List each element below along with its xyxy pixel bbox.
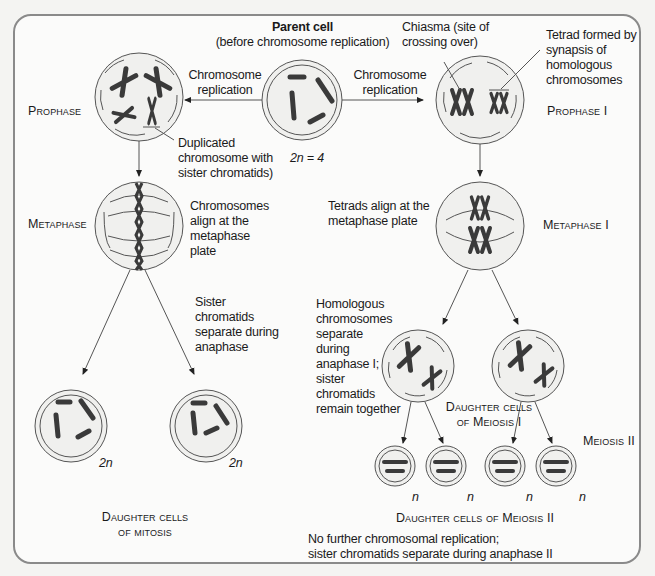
meiosis-ii-daughter-cell-4 (536, 446, 576, 486)
homologous-label-7: chromatids (316, 387, 375, 402)
daughter-mitosis-label-1: Daughter cells (100, 510, 190, 525)
meiosis-ploidy-3: n (526, 490, 533, 505)
metaphase-label: Metaphase (28, 217, 87, 232)
sister-sep-label-3: separate during (195, 325, 279, 340)
duplicated-label-3: sister chromatids) (178, 166, 273, 181)
footer-line-1: No further chromosomal replication; (308, 532, 499, 547)
metaphase-i-label: Metaphase I (543, 218, 609, 233)
homologous-label-6: sister (316, 372, 345, 387)
homologous-label-4: during (316, 342, 350, 357)
parent-cell (262, 60, 342, 140)
arrow-to-meiosis-i-daughter-2 (492, 270, 518, 324)
parent-ploidy: 2n = 4 (290, 151, 324, 166)
duplicated-label-1: Duplicated (178, 136, 235, 151)
align-label-4: plate (190, 244, 216, 259)
daughter-meiosis-i-label-1: Daughter cells (440, 400, 538, 415)
parent-cell-subtitle: (before chromosome replication) (200, 35, 405, 50)
prophase-cell (95, 53, 183, 141)
replication-label-right-1: Chromosome (350, 68, 430, 83)
homologous-label-2: chromosomes (316, 312, 392, 327)
mitosis-daughter-cell-1 (35, 390, 107, 462)
meiosis-ploidy-1: n (412, 490, 419, 505)
prophase-i-label: Prophase I (547, 104, 607, 119)
tetrad-label-3: homologous (546, 58, 612, 73)
meiosis-i-daughter-cell-2 (492, 330, 564, 402)
homologous-label-1: Homologous (316, 297, 384, 312)
arrow-to-daughter-1 (83, 270, 130, 374)
mitosis-ploidy-1: 2n (99, 456, 113, 471)
meiosis-ii-daughter-cell-2 (426, 446, 466, 486)
chiasma-label-1: Chiasma (site of (402, 20, 489, 35)
align-label-2: align at the (190, 214, 249, 229)
arrow-to-daughter-2 (145, 270, 194, 374)
meiosis-i-daughter-cell-1 (382, 330, 454, 402)
meiosis-ii-label: Meiosis II (583, 434, 635, 449)
footer-line-2: sister chromatids separate during anapha… (308, 547, 553, 562)
metaphase-i-cell (436, 182, 524, 270)
arrow-to-meiosis-i-daughter-1 (443, 270, 468, 324)
sister-sep-label-1: Sister (195, 295, 226, 310)
daughter-meiosis-i-label-2: of Meiosis I (440, 415, 538, 430)
align-label-1: Chromosomes (190, 199, 269, 214)
sister-sep-label-4: anaphase (195, 340, 248, 355)
align-label-3: metaphase (190, 229, 250, 244)
duplicated-label-2: chromosome with (178, 151, 273, 166)
tetrad-label-4: chromosomes (546, 73, 622, 88)
chiasma-label-2: crossing over) (402, 35, 478, 50)
tetrads-align-label-2: metaphase plate (328, 214, 417, 229)
tetrads-align-label-1: Tetrads align at the (328, 199, 430, 214)
prophase-i-cell (436, 50, 540, 144)
meiosis-ploidy-2: n (467, 490, 474, 505)
parent-cell-title: Parent cell (225, 20, 380, 35)
homologous-label-3: separate (316, 327, 363, 342)
homologous-label-5: anaphase I; (316, 357, 379, 372)
meiosis-ii-daughter-cell-3 (485, 446, 525, 486)
prophase-label: Prophase (28, 104, 81, 119)
metaphase-cell (95, 182, 183, 270)
mitosis-daughter-cell-2 (170, 390, 242, 462)
tetrad-label-1: Tetrad formed by (546, 28, 637, 43)
sister-sep-label-2: chromatids (195, 310, 254, 325)
homologous-label-8: remain together (316, 402, 401, 417)
replication-label-left-1: Chromosome (185, 68, 265, 83)
daughter-mitosis-label-2: of mitosis (100, 525, 190, 540)
daughter-meiosis-ii-label: Daughter cells of Meiosis II (380, 511, 570, 526)
arrow-meiosis-ii-1 (403, 402, 411, 443)
mitosis-ploidy-2: 2n (229, 456, 243, 471)
tetrad-label-2: synapsis of (546, 43, 606, 58)
meiosis-ploidy-4: n (579, 490, 586, 505)
replication-label-left-2: replication (185, 83, 265, 98)
meiosis-ii-daughter-cell-1 (375, 446, 415, 486)
replication-label-right-2: replication (350, 83, 430, 98)
